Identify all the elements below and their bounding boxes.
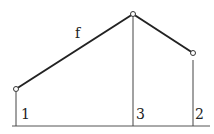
diagram-canvas: f 1 3 2 (0, 0, 214, 134)
function-label: f (75, 25, 82, 41)
function-segment-3-2 (135, 15, 192, 52)
point-label-3: 3 (136, 106, 145, 122)
node-point-1 (14, 87, 19, 92)
node-point-3 (131, 12, 136, 17)
node-point-2 (191, 51, 196, 56)
point-label-1: 1 (21, 106, 30, 122)
point-label-2: 2 (195, 106, 204, 122)
